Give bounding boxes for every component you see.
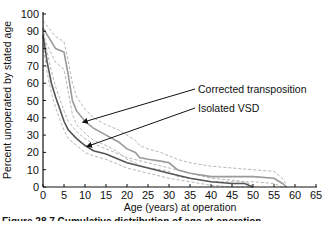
survival-chart: 0102030405060708090100051015202530354045… [0,0,331,214]
axes: 0102030405060708090100051015202530354045… [21,8,322,201]
y-tick-label: 0 [33,181,39,193]
x-tick-label: 20 [121,189,133,201]
annotation-arrow [83,89,195,122]
annotations: Corrected transpositionIsolated VSD [83,83,307,146]
y-tick-label: 50 [27,95,39,107]
corrected-transposition-label: Corrected transposition [198,83,307,95]
x-tick-label: 5 [61,189,67,201]
x-tick-label: 50 [247,189,259,201]
x-axis-label: Age (years) at operation [124,201,237,213]
y-tick-label: 30 [27,129,39,141]
y-tick-label: 80 [27,43,39,55]
y-tick-label: 10 [27,164,39,176]
x-tick-label: 65 [310,189,322,201]
x-tick-label: 40 [205,189,217,201]
annotation-arrow [87,108,195,146]
x-tick-label: 55 [268,189,280,201]
isolated-vsd-label: Isolated VSD [198,102,260,114]
x-tick-label: 25 [142,189,154,201]
y-axis-label: Percent unoperated by stated age [1,21,13,179]
x-tick-label: 15 [100,189,112,201]
y-tick-label: 20 [27,146,39,158]
y-tick-label: 100 [21,8,39,20]
x-tick-label: 60 [289,189,301,201]
y-tick-label: 60 [27,77,39,89]
x-tick-label: 45 [226,189,238,201]
x-tick-label: 35 [184,189,196,201]
x-tick-label: 30 [163,189,175,201]
x-tick-label: 0 [40,189,46,201]
ci-lower-line [43,45,253,187]
x-tick-label: 10 [79,189,91,201]
y-tick-label: 70 [27,60,39,72]
figure-caption: Figure 28.7 Cumulative distribution of a… [2,216,261,226]
y-tick-label: 40 [27,112,39,124]
y-tick-label: 90 [27,25,39,37]
